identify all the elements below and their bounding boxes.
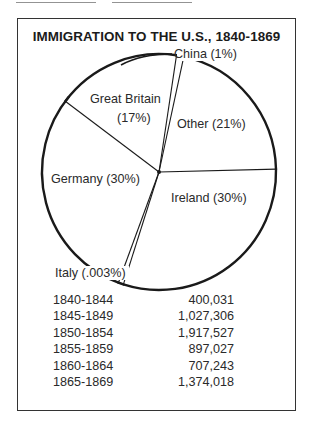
table-row: 1855-1859897,027 [53, 341, 234, 357]
table-row: 1850-18541,917,527 [53, 325, 234, 341]
table-row: 1845-18491,027,306 [53, 308, 234, 324]
pie-slice-arc-germany [42, 97, 118, 283]
period-cell: 1855-1859 [53, 341, 163, 357]
slice-label-germany: Germany (30%) [51, 172, 140, 186]
immigration-table: 1840-1844400,0311845-18491,027,3061850-1… [53, 292, 234, 390]
table-row: 1840-1844400,031 [53, 292, 234, 308]
period-cell: 1845-1849 [53, 308, 163, 324]
slice-label-great-britain-percent: (17%) [117, 111, 151, 125]
slice-label-great-britain: Great Britain [90, 92, 161, 106]
period-cell: 1850-1854 [53, 325, 163, 341]
slice-label-ireland: Ireland (30%) [171, 191, 247, 205]
pie-boundary-china [159, 55, 177, 172]
pie-boundary-ireland [159, 169, 276, 172]
slice-label-china: China (1%) [174, 47, 237, 61]
immigrant-count-cell: 897,027 [163, 341, 234, 357]
slice-label-italy: Italy (.003%) [55, 266, 126, 280]
immigrant-count-cell: 1,027,306 [163, 308, 234, 324]
pie-slice-arc-ireland [123, 169, 276, 290]
period-cell: 1840-1844 [53, 292, 163, 308]
pie-slice-arc-other [184, 57, 276, 169]
table-row: 1865-18691,374,018 [53, 374, 234, 390]
immigrant-count-cell: 1,917,527 [163, 325, 234, 341]
leader-line-china [121, 54, 172, 65]
period-cell: 1865-1869 [53, 374, 163, 390]
immigrant-count-cell: 400,031 [163, 292, 234, 308]
period-cell: 1860-1864 [53, 358, 163, 374]
slice-label-other: Other (21%) [177, 117, 246, 131]
immigrant-count-cell: 1,374,018 [163, 374, 234, 390]
table-row: 1860-1864707,243 [53, 358, 234, 374]
pie-boundary-other [159, 57, 184, 172]
immigrant-count-cell: 707,243 [163, 358, 234, 374]
pie-center-dot [157, 170, 161, 174]
